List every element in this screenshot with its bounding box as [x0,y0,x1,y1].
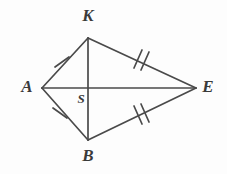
vertex-label-A: A [20,77,32,96]
segment-KE [88,38,196,88]
geometry-diagram: K A E B S [0,0,227,174]
intersection-label-S: S [77,91,84,106]
vertex-label-B: B [81,146,93,165]
tick-mark-segment-KE-second [141,52,149,70]
segment-BE [88,88,196,140]
kite-outline [42,38,196,140]
kite-diagram-svg: K A E B S [0,0,227,174]
segment-AK [42,38,88,88]
vertex-label-K: K [81,6,95,25]
vertex-label-E: E [201,77,213,96]
vertex-labels: K A E B S [20,6,213,165]
